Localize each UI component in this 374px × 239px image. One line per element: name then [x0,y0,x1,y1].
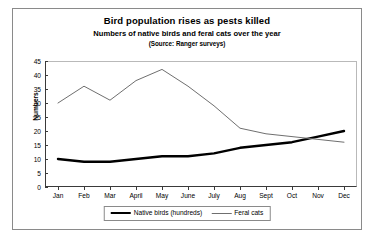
x-tick-label: April [129,192,142,200]
series-line-native-birds [58,131,344,162]
x-tick-label: Oct [287,192,297,200]
x-tick-mark [214,187,215,190]
page-title: Bird population rises as pests killed [13,15,361,27]
plot-area: Numbers 051015202530354045 JanFebMarApri… [45,61,357,187]
y-tick-label: 15 [34,142,41,149]
x-tick-mark [84,187,85,190]
legend-entry: Feral cats [211,209,263,217]
legend: Native birds (hundreds)Feral cats [104,206,271,221]
x-tick-label: Jan [53,192,64,200]
legend-entry: Native birds (hundreds) [111,209,203,217]
x-tick-mark [188,187,189,190]
x-tick-mark [136,187,137,190]
x-tick-label: July [208,192,220,200]
chart-subtitle: Numbers of native birds and feral cats o… [13,28,361,39]
y-tick-label: 45 [34,58,41,65]
legend-swatch-icon [211,213,231,214]
chart-source: (Source: Ranger surveys) [13,39,361,48]
legend-label: Feral cats [234,209,263,217]
x-tick-mark [58,187,59,190]
x-tick-label: Mar [104,192,115,200]
x-tick-label: Aug [234,192,246,200]
title-block: Bird population rises as pests killed Nu… [13,15,361,48]
y-tick-label: 25 [34,114,41,121]
x-tick-mark [162,187,163,190]
x-tick-label: May [156,192,168,200]
x-tick-label: June [181,192,195,200]
x-tick-mark [110,187,111,190]
x-tick-label: Dec [338,192,350,200]
y-tick-label: 30 [34,100,41,107]
x-tick-mark [344,187,345,190]
legend-swatch-icon [111,212,131,214]
series-lines [45,61,357,187]
y-tick-label: 35 [34,86,41,93]
x-tick-mark [292,187,293,190]
series-line-feral-cats [58,69,344,142]
x-tick-mark [240,187,241,190]
y-tick-label: 5 [37,170,41,177]
legend-label: Native birds (hundreds) [134,209,203,217]
y-tick-mark [45,187,48,188]
y-tick-label: 20 [34,128,41,135]
x-tick-mark [318,187,319,190]
x-tick-mark [266,187,267,190]
y-tick-label: 10 [34,156,41,163]
x-tick-label: Feb [78,192,89,200]
y-tick-label: 40 [34,72,41,79]
chart-card: Bird population rises as pests killed Nu… [12,8,362,230]
x-tick-label: Sept [259,192,273,200]
y-tick-label: 0 [37,184,41,191]
x-tick-label: Nov [312,192,324,200]
